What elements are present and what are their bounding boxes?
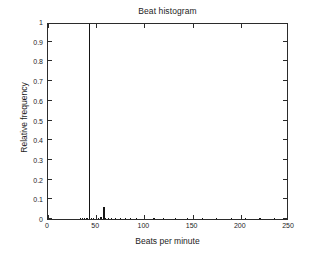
plot-inner [48,24,287,219]
y-tick-right [283,159,287,160]
y-tick-right [283,80,287,81]
x-tick-label: 150 [178,222,206,230]
chart-figure: Beat histogram 00.10.20.30.40.50.60.70.8… [0,0,310,258]
y-tick-right [283,218,287,219]
x-axis-label: Beats per minute [47,236,288,247]
x-tick-top [193,24,194,28]
y-tick-right [283,179,287,180]
y-tick-right [283,120,287,121]
y-tick [48,100,52,101]
bar [120,218,121,219]
bar [111,218,112,219]
x-tick-label: 200 [226,222,254,230]
y-tick-right [283,139,287,140]
y-tick-right [283,60,287,61]
plot-area [47,23,288,220]
bar [100,217,101,219]
bar [245,218,246,219]
y-tick-right [283,100,287,101]
y-tick [48,198,52,199]
bar [105,218,106,219]
y-tick [48,41,52,42]
bar [231,218,232,219]
y-axis-label: Relative frequency [19,53,30,183]
bar [98,218,99,219]
bar [115,218,116,219]
bar [259,218,260,219]
y-tick [48,179,52,180]
x-tick-top [48,24,49,28]
bar [89,24,91,219]
y-tick [48,139,52,140]
bar [125,218,126,219]
x-tick-top [241,24,242,28]
x-tick-top [144,24,145,28]
y-tick-right [283,198,287,199]
bar [163,218,164,219]
y-tick [48,120,52,121]
bar [187,218,188,219]
bar [130,218,131,219]
y-tick-label: 0.9 [21,39,43,47]
y-tick-right [283,41,287,42]
bar [175,218,176,219]
y-tick [48,60,52,61]
y-tick [48,159,52,160]
bar [274,218,275,219]
x-tick-label: 50 [81,222,109,230]
x-tick [193,215,194,219]
x-tick-label: 100 [129,222,157,230]
x-tick [96,215,97,219]
bar [153,218,154,219]
y-tick-label: 0.1 [21,196,43,204]
bar [93,218,94,219]
y-tick-label: 1 [21,19,43,27]
x-tick-label: 250 [274,222,302,230]
x-tick [144,215,145,219]
x-tick-label: 0 [33,222,61,230]
x-tick [241,215,242,219]
bar [108,218,109,219]
bar [202,218,203,219]
bar [216,218,217,219]
y-tick [48,218,52,219]
chart-title: Beat histogram [47,6,288,17]
y-tick [48,80,52,81]
x-tick-top [96,24,97,28]
bar [136,218,137,219]
